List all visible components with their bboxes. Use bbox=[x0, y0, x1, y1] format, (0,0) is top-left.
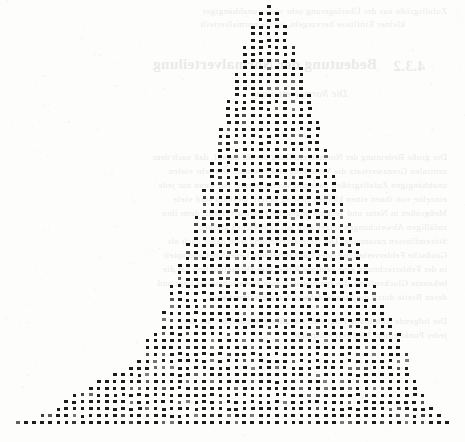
plot-dot bbox=[307, 224, 311, 227]
plot-dot bbox=[243, 101, 247, 104]
plot-dot bbox=[275, 352, 279, 355]
plot-dot bbox=[162, 353, 166, 356]
plot-dot bbox=[138, 407, 142, 410]
plot-dot bbox=[283, 203, 287, 206]
plot-dot bbox=[105, 387, 109, 390]
plot-dot bbox=[243, 284, 247, 287]
plot-dot bbox=[283, 271, 287, 274]
plot-dot bbox=[251, 203, 255, 206]
plot-dot bbox=[283, 169, 287, 172]
plot-dot bbox=[194, 387, 198, 390]
plot-dot bbox=[275, 107, 279, 110]
plot-dot bbox=[194, 264, 198, 267]
plot-dot bbox=[267, 312, 271, 315]
plot-dot bbox=[243, 387, 247, 390]
plot-dot bbox=[275, 210, 279, 213]
plot-dot bbox=[242, 114, 246, 117]
plot-dot bbox=[218, 305, 222, 308]
plot-dot bbox=[324, 346, 328, 349]
plot-dot bbox=[218, 271, 222, 274]
plot-dot bbox=[340, 380, 344, 383]
plot-dot bbox=[389, 408, 393, 411]
plot-dot bbox=[292, 271, 296, 274]
plot-dot bbox=[251, 339, 255, 342]
plot-dot bbox=[130, 414, 134, 417]
plot-dot bbox=[226, 285, 230, 288]
plot-dot bbox=[251, 400, 255, 403]
plot-dot bbox=[113, 373, 117, 376]
plot-dot bbox=[283, 196, 287, 199]
plot-dot bbox=[283, 353, 287, 356]
plot-dot bbox=[316, 352, 320, 355]
plot-dot bbox=[300, 148, 304, 151]
plot-dot bbox=[316, 340, 320, 343]
plot-dot bbox=[340, 339, 344, 342]
plot-dot bbox=[259, 224, 263, 227]
plot-dot bbox=[243, 141, 247, 144]
plot-dot bbox=[186, 387, 190, 390]
plot-dot bbox=[235, 326, 239, 329]
plot-dot bbox=[170, 339, 174, 342]
plot-dot bbox=[300, 216, 304, 219]
plot-dot bbox=[267, 360, 271, 363]
plot-dot bbox=[186, 326, 190, 329]
plot-dot bbox=[356, 339, 360, 342]
plot-dot bbox=[307, 271, 311, 274]
plot-dot bbox=[218, 149, 222, 152]
plot-dot bbox=[226, 142, 230, 145]
plot-dot bbox=[250, 421, 254, 424]
plot-dot bbox=[243, 359, 247, 362]
plot-dot bbox=[243, 53, 247, 56]
plot-dot bbox=[259, 319, 263, 322]
plot-dot bbox=[219, 367, 223, 370]
plot-dot bbox=[219, 135, 223, 138]
plot-dot bbox=[364, 271, 368, 274]
plot-dot bbox=[162, 421, 166, 424]
plot-dot bbox=[154, 339, 158, 342]
plot-dot bbox=[235, 278, 239, 281]
plot-dot bbox=[275, 59, 279, 62]
plot-dot bbox=[251, 73, 255, 76]
plot-dot bbox=[307, 312, 311, 315]
plot-dot bbox=[332, 223, 336, 226]
plot-dot bbox=[251, 80, 255, 83]
plot-dot bbox=[324, 407, 328, 410]
plot-dot bbox=[348, 346, 352, 349]
plot-dot bbox=[340, 278, 344, 281]
plot-dot bbox=[202, 326, 206, 329]
plot-dot bbox=[218, 373, 222, 376]
plot-dot bbox=[137, 393, 141, 396]
plot-dot bbox=[283, 257, 287, 260]
plot-dot bbox=[146, 353, 150, 356]
plot-dot bbox=[194, 251, 198, 254]
plot-dot bbox=[324, 237, 328, 240]
plot-dot bbox=[283, 223, 287, 226]
plot-dot bbox=[178, 326, 182, 329]
plot-dot bbox=[178, 394, 182, 397]
plot-dot bbox=[218, 169, 222, 172]
plot-dot bbox=[41, 414, 45, 417]
plot-dot bbox=[194, 257, 198, 260]
plot-dot bbox=[210, 244, 214, 247]
plot-dot bbox=[234, 168, 238, 171]
plot-dot bbox=[421, 414, 425, 417]
plot-dot bbox=[32, 421, 36, 424]
plot-dot bbox=[324, 264, 328, 267]
plot-dot bbox=[356, 257, 360, 260]
plot-dot bbox=[267, 121, 271, 124]
plot-dot bbox=[348, 387, 352, 390]
plot-dot bbox=[340, 312, 344, 315]
plot-dot bbox=[243, 134, 247, 137]
plot-dot bbox=[203, 230, 207, 233]
plot-dot bbox=[121, 414, 125, 417]
plot-dot bbox=[16, 421, 20, 424]
plot-dot bbox=[299, 271, 303, 274]
plot-dot bbox=[210, 401, 214, 404]
plot-dot bbox=[243, 244, 247, 247]
plot-dot bbox=[146, 346, 150, 349]
plot-dot bbox=[340, 346, 344, 349]
plot-dot bbox=[227, 251, 231, 254]
plot-dot bbox=[251, 134, 255, 137]
plot-dot bbox=[202, 189, 206, 192]
plot-dot bbox=[89, 414, 93, 417]
